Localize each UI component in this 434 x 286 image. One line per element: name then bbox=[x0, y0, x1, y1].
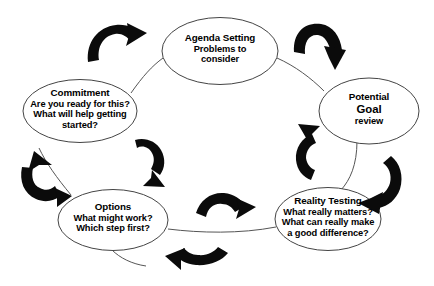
arrow-inner-right bbox=[296, 124, 320, 180]
node-reality-testing[interactable] bbox=[275, 188, 381, 251]
connector-commitment-agenda bbox=[131, 58, 163, 93]
node-options[interactable] bbox=[58, 190, 168, 251]
connector-goal-reality bbox=[341, 141, 357, 190]
cycle-diagram bbox=[0, 0, 434, 286]
node-agenda-setting[interactable] bbox=[162, 18, 278, 85]
arrow-right bbox=[358, 156, 402, 214]
arrow-inner-upper-left bbox=[135, 139, 165, 187]
arrow-bottom bbox=[165, 247, 228, 270]
connector-ring-outer-bottom bbox=[112, 250, 146, 266]
node-potential-goal[interactable] bbox=[319, 78, 419, 144]
arrow-left bbox=[21, 151, 72, 207]
diagram-canvas: Agenda Setting Problems to consider Pote… bbox=[0, 0, 434, 286]
connector-reality-options bbox=[168, 227, 276, 232]
arrow-top-right bbox=[294, 24, 346, 70]
arrow-top-left bbox=[88, 23, 147, 62]
node-commitment[interactable] bbox=[23, 80, 137, 143]
arrow-inner-lower-center bbox=[196, 193, 256, 219]
connector-agenda-goal bbox=[277, 58, 324, 91]
